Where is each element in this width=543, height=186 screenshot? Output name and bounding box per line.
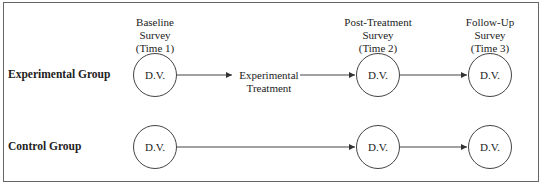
header-line: Follow-Up — [445, 16, 535, 29]
header-line: Baseline — [110, 16, 200, 29]
node-experimental-time3: D.V. — [468, 53, 512, 97]
column-header-follow-up: Follow-Up Survey (Time 3) — [445, 16, 535, 55]
header-line: Survey — [110, 29, 200, 42]
experimental-treatment-label: Experimental Treatment — [229, 69, 309, 95]
group-label-experimental: Experimental Group — [8, 68, 110, 80]
node-experimental-time1: D.V. — [133, 53, 177, 97]
node-experimental-time2: D.V. — [356, 53, 400, 97]
node-control-time1: D.V. — [133, 125, 177, 169]
group-label-control: Control Group — [8, 140, 81, 152]
column-header-baseline: Baseline Survey (Time 1) — [110, 16, 200, 55]
treatment-line: Treatment — [229, 82, 309, 95]
header-line: Post-Treatment — [333, 16, 423, 29]
treatment-line: Experimental — [229, 69, 309, 82]
header-line: Survey — [333, 29, 423, 42]
node-control-time3: D.V. — [468, 125, 512, 169]
node-control-time2: D.V. — [356, 125, 400, 169]
column-header-post-treatment: Post-Treatment Survey (Time 2) — [333, 16, 423, 55]
header-line: Survey — [445, 29, 535, 42]
